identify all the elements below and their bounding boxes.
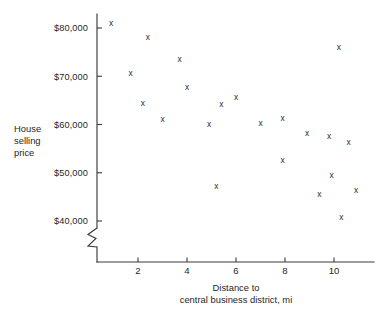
data-point: x xyxy=(337,42,342,52)
data-point: x xyxy=(207,119,212,129)
y-tick-label-80000: $80,000 xyxy=(54,23,88,33)
data-point: x xyxy=(185,82,190,92)
data-point-group: xxxxxxxxxxxxxxxxxxxxxx xyxy=(109,18,359,222)
data-point: x xyxy=(258,118,263,128)
plot-canvas: $40,000$50,000$60,000$70,000$80,000 2468… xyxy=(0,0,377,314)
data-point: x xyxy=(146,32,151,42)
data-point: x xyxy=(141,98,146,108)
y-axis-title-line-1: House xyxy=(14,123,41,134)
data-point: x xyxy=(329,170,334,180)
data-point: x xyxy=(280,113,285,123)
y-tick-label-70000: $70,000 xyxy=(54,72,88,82)
data-point: x xyxy=(347,137,352,147)
data-point: x xyxy=(234,92,239,102)
data-point: x xyxy=(354,185,359,195)
x-tick-label-2: 2 xyxy=(135,265,140,276)
x-tick-label-8: 8 xyxy=(282,265,287,276)
x-tick-label-10: 10 xyxy=(329,265,340,276)
data-point: x xyxy=(305,128,310,138)
scatter-plot-figure: $40,000$50,000$60,000$70,000$80,000 2468… xyxy=(0,0,377,314)
x-tick-group: 246810 xyxy=(135,258,339,277)
y-axis-break-icon xyxy=(88,228,97,247)
x-axis-title-line-1: Distance to xyxy=(213,282,260,293)
y-axis-title-line-2: selling xyxy=(14,135,41,146)
data-point: x xyxy=(129,68,134,78)
data-point: x xyxy=(339,212,344,222)
data-point: x xyxy=(280,155,285,165)
y-tick-label-60000: $60,000 xyxy=(54,120,88,130)
data-point: x xyxy=(219,99,224,109)
data-point: x xyxy=(178,54,183,64)
y-tick-group: $40,000$50,000$60,000$70,000$80,000 xyxy=(54,23,102,226)
data-point: x xyxy=(160,114,165,124)
x-tick-label-6: 6 xyxy=(233,265,238,276)
data-point: x xyxy=(317,189,322,199)
data-point: x xyxy=(327,131,332,141)
x-axis-title-line-2: central business district, mi xyxy=(180,294,293,305)
data-point: x xyxy=(214,181,219,191)
axis-label-group: HousesellingpriceDistance tocentral busi… xyxy=(14,123,292,305)
y-tick-label-50000: $50,000 xyxy=(54,168,88,178)
y-axis-title-line-3: price xyxy=(14,147,34,158)
data-point: x xyxy=(109,18,114,28)
x-tick-label-4: 4 xyxy=(184,265,190,276)
y-tick-label-40000: $40,000 xyxy=(54,216,88,226)
